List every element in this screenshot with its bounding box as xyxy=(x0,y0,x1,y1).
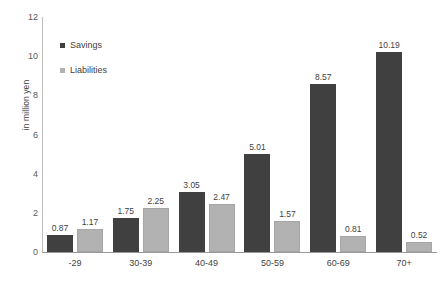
bar-value-label: 0.81 xyxy=(345,224,362,234)
x-tick-label: 30-39 xyxy=(129,258,152,268)
bar-liabilities--29 xyxy=(77,229,103,252)
bar-value-label: 8.57 xyxy=(315,72,332,82)
bar-savings-50-59 xyxy=(244,154,270,252)
bar-savings-70+ xyxy=(376,52,402,252)
legend-label: Liabilities xyxy=(70,65,107,75)
legend-label: Savings xyxy=(70,40,102,50)
x-axis-line xyxy=(42,252,437,253)
bar-liabilities-50-59 xyxy=(274,221,300,252)
y-axis-tick-labels: 024681012 xyxy=(0,0,38,281)
y-tick-label: 0 xyxy=(4,247,38,257)
bar-savings-60-69 xyxy=(310,84,336,252)
bar-value-label: 2.25 xyxy=(147,196,164,206)
chart-legend: SavingsLiabilities xyxy=(60,40,107,90)
bar-value-label: 5.01 xyxy=(249,142,266,152)
bar-value-label: 1.17 xyxy=(82,217,99,227)
y-tick-label: 12 xyxy=(4,12,38,22)
bar-savings-40-49 xyxy=(179,192,205,252)
y-tick-label: 6 xyxy=(4,130,38,140)
y-tick-label: 4 xyxy=(4,169,38,179)
legend-swatch-icon xyxy=(60,68,65,73)
bar-liabilities-70+ xyxy=(406,242,432,252)
bar-savings-30-39 xyxy=(113,218,139,252)
legend-swatch-icon xyxy=(60,43,65,48)
y-tick-label: 8 xyxy=(4,90,38,100)
x-tick-label: 50-59 xyxy=(261,258,284,268)
bar-value-label: 2.47 xyxy=(213,192,230,202)
x-tick-label: 60-69 xyxy=(327,258,350,268)
legend-item-savings: Savings xyxy=(60,40,107,50)
bar-liabilities-40-49 xyxy=(209,204,235,252)
y-tick-label: 10 xyxy=(4,51,38,61)
y-tick-label: 2 xyxy=(4,208,38,218)
bar-savings--29 xyxy=(47,235,73,252)
bar-value-label: 1.57 xyxy=(279,209,296,219)
legend-item-liabilities: Liabilities xyxy=(60,65,107,75)
bar-value-label: 0.87 xyxy=(52,223,69,233)
bar-value-label: 0.52 xyxy=(411,230,428,240)
bar-value-label: 10.19 xyxy=(378,40,399,50)
bar-chart: in million yen 024681012 0.871.171.752.2… xyxy=(0,0,445,281)
x-tick-label: 70+ xyxy=(396,258,411,268)
bar-liabilities-60-69 xyxy=(340,236,366,252)
bar-value-label: 1.75 xyxy=(117,206,134,216)
bar-value-label: 3.05 xyxy=(183,180,200,190)
x-tick-label: -29 xyxy=(68,258,81,268)
x-tick-label: 40-49 xyxy=(195,258,218,268)
bar-liabilities-30-39 xyxy=(143,208,169,252)
